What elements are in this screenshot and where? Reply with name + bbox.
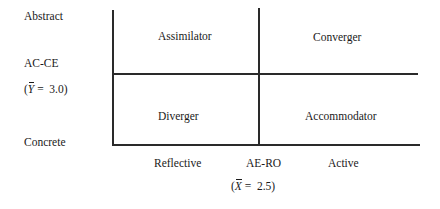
left-axis-line xyxy=(112,10,114,146)
y-mean-symbol: Y xyxy=(28,84,34,96)
x-dimension-label: AE-RO xyxy=(246,158,281,170)
y-bottom-label: Concrete xyxy=(24,137,66,149)
quadrant-top-right: Converger xyxy=(313,32,361,44)
x-mean-symbol: X xyxy=(235,181,242,193)
y-mean-label: (Y = 3.0) xyxy=(24,84,68,96)
y-top-label: Abstract xyxy=(24,11,63,23)
center-divider-horizontal xyxy=(112,73,418,75)
x-right-label: Active xyxy=(328,158,359,170)
bottom-axis-line xyxy=(112,144,420,146)
center-divider-vertical xyxy=(258,8,260,146)
y-dimension-label: AC-CE xyxy=(24,58,59,70)
quadrant-bottom-left: Diverger xyxy=(158,111,199,123)
x-mean-suffix: = 2.5) xyxy=(242,180,275,192)
y-mean-suffix: = 3.0) xyxy=(34,83,67,95)
x-mean-label: (X = 2.5) xyxy=(231,181,275,193)
x-left-label: Reflective xyxy=(154,158,201,170)
quadrant-top-left: Assimilator xyxy=(158,31,212,43)
quadrant-bottom-right: Accommodator xyxy=(305,111,377,123)
